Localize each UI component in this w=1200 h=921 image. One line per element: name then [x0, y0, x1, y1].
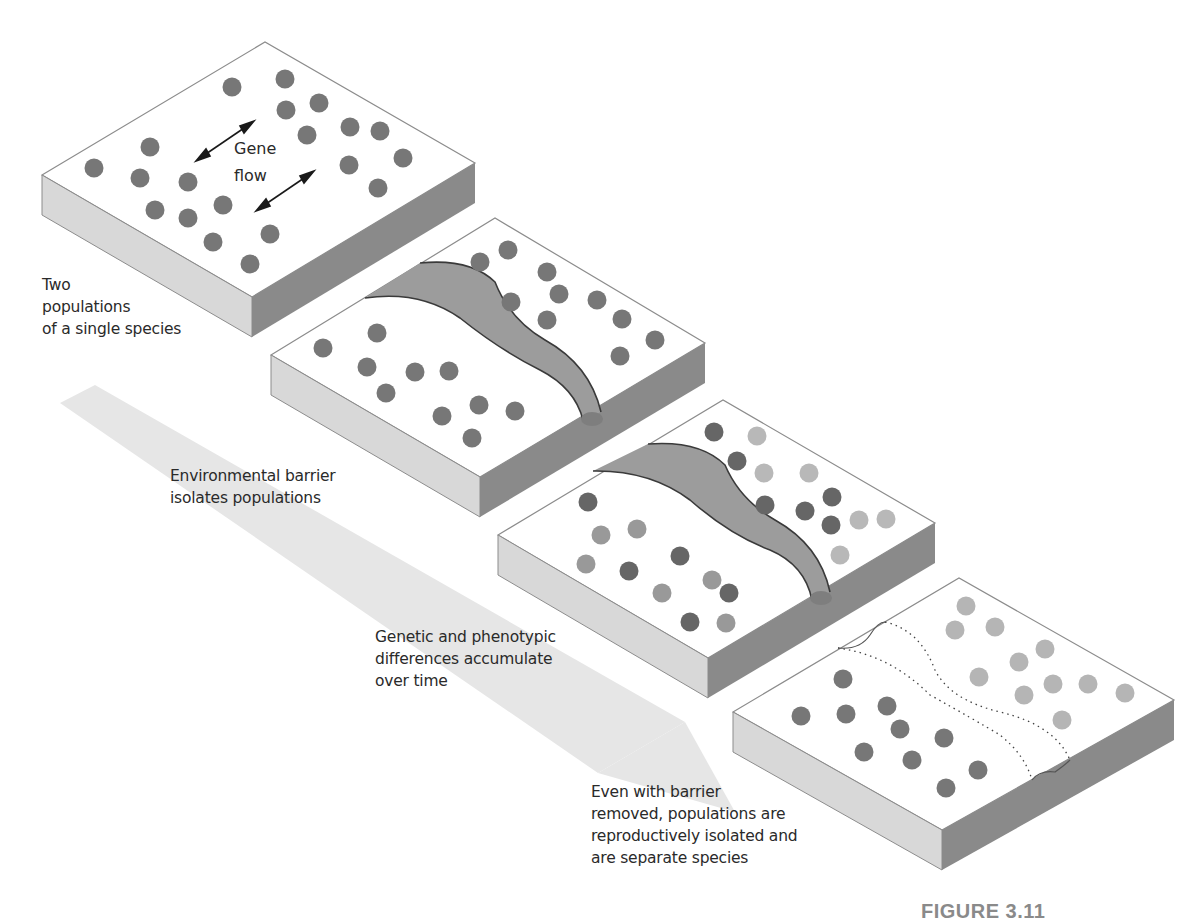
caption-stage-3: Genetic and phenotypic differences accum…	[375, 626, 556, 692]
caption-stage-1: Two populations of a single species	[42, 274, 181, 340]
caption-line: are separate species	[591, 847, 797, 869]
gene-flow-label: flow	[234, 166, 267, 185]
caption-line: isolates populations	[170, 487, 336, 509]
caption-stage-4: Even with barrier removed, populations a…	[591, 781, 797, 869]
caption-line: Even with barrier	[591, 781, 797, 803]
caption-stage-2: Environmental barrier isolates populatio…	[170, 465, 336, 509]
caption-line: Genetic and phenotypic	[375, 626, 556, 648]
caption-line: Environmental barrier	[170, 465, 336, 487]
gene-flow-label: Gene	[234, 139, 276, 158]
caption-line: differences accumulate	[375, 648, 556, 670]
caption-line: of a single species	[42, 318, 181, 340]
caption-line: over time	[375, 670, 556, 692]
caption-line: reproductively isolated and	[591, 825, 797, 847]
caption-line: removed, populations are	[591, 803, 797, 825]
caption-line: populations	[42, 296, 181, 318]
figure-label: FIGURE 3.11	[921, 900, 1045, 921]
caption-line: Two	[42, 274, 181, 296]
